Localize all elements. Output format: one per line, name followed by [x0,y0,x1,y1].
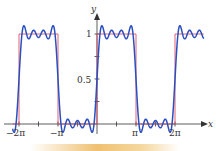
fourier-square-wave-chart: x y −2π −π π 2π 1 0.5 [0,0,216,151]
y-tick-label-0-5: 0.5 [77,75,92,85]
x-tick-label-pi: π [132,128,138,138]
x-tick-label-2pi: 2π [169,128,181,138]
x-tick-label-neg-pi: −π [50,128,64,138]
x-axis-label: x [208,119,213,129]
x-axis-arrow-icon [201,121,208,127]
y-tick-label-1: 1 [86,29,92,39]
decorative-gradient-bar [30,144,180,151]
y-axis-label: y [90,4,97,14]
y-axis-arrow-icon [94,13,100,20]
x-tick-label-neg-2pi: −2π [6,128,25,138]
